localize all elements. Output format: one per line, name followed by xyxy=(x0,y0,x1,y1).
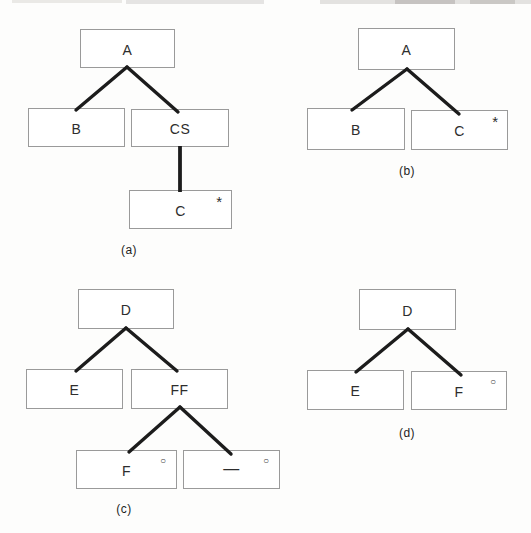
edge-c-root-right xyxy=(126,328,177,371)
caption-d: (d) xyxy=(399,426,415,440)
tree-a-node-child: C * xyxy=(129,190,232,229)
scan-artifact-band xyxy=(126,0,264,4)
node-label: A xyxy=(123,42,133,58)
scan-artifact-band xyxy=(470,0,515,4)
node-label: C xyxy=(454,123,465,139)
edge-d-root-right xyxy=(408,329,461,375)
node-label: FF xyxy=(170,382,188,398)
tree-c-node-left: E xyxy=(26,369,123,409)
tree-a-node-root: A xyxy=(80,29,175,68)
figure-canvas: A B CS C * (a) A B C * (b) D E FF F ○ — … xyxy=(0,0,531,533)
node-label: F xyxy=(454,384,463,400)
edge-c-right-gcleft xyxy=(129,407,180,452)
tree-c-node-grandchild-right: — ○ xyxy=(183,450,280,489)
tree-d-node-root: D xyxy=(359,289,456,330)
edge-d-root-left xyxy=(356,329,408,372)
node-label: CS xyxy=(170,121,190,137)
tree-c-node-grandchild-left: F ○ xyxy=(76,450,177,489)
caption-a: (a) xyxy=(121,243,137,257)
node-label: B xyxy=(351,122,361,138)
edge-b-root-right xyxy=(407,69,459,114)
tree-a-node-right: CS xyxy=(131,109,229,147)
tree-c-node-right: FF xyxy=(131,369,228,409)
edge-a-root-left xyxy=(76,67,127,110)
node-label: F xyxy=(122,463,131,479)
node-label: D xyxy=(402,303,413,319)
scan-artifact-band xyxy=(12,0,122,3)
edge-a-root-right xyxy=(127,67,178,112)
caption-c: (c) xyxy=(116,502,132,516)
caption-b: (b) xyxy=(399,164,415,178)
node-label: E xyxy=(70,382,80,398)
circle-marker: ○ xyxy=(490,377,496,387)
circle-marker: ○ xyxy=(160,456,166,466)
edge-c-root-left xyxy=(76,328,126,371)
node-label: E xyxy=(351,383,361,399)
node-label: B xyxy=(72,121,82,137)
node-label: A xyxy=(402,42,412,58)
tree-d-node-left: E xyxy=(307,370,404,410)
tree-d-node-right: F ○ xyxy=(411,371,507,410)
circle-marker: ○ xyxy=(263,456,269,466)
node-label: D xyxy=(121,302,132,318)
tree-a-node-left: B xyxy=(28,108,125,147)
edge-b-root-left xyxy=(352,69,407,110)
asterisk-marker: * xyxy=(216,194,222,209)
asterisk-marker: * xyxy=(492,114,498,129)
node-label: — xyxy=(223,460,240,478)
node-label: C xyxy=(175,203,186,219)
tree-b-node-left: B xyxy=(307,108,405,150)
tree-c-node-root: D xyxy=(78,289,174,329)
scan-artifact-band xyxy=(395,0,455,4)
edge-c-right-gcright xyxy=(180,407,231,454)
tree-b-node-root: A xyxy=(358,28,455,70)
tree-b-node-right: C * xyxy=(411,110,508,150)
